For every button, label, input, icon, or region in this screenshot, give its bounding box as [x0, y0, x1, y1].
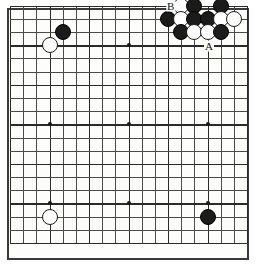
grid-line-horizontal-1: [10, 6, 247, 7]
go-diagram: BA: [0, 0, 256, 270]
grid-line-horizontal-13: [10, 164, 247, 165]
stone-black-b-q4[interactable]: [200, 209, 216, 225]
star-point-6: [206, 122, 210, 126]
stone-black-b-t17[interactable]: [213, 24, 229, 40]
grid-line-horizontal-14: [10, 177, 247, 178]
grid-line-vertical-19: [247, 6, 248, 243]
stone-white-w-d4[interactable]: [42, 209, 58, 225]
star-point-2: [127, 43, 131, 47]
marker-a: A: [204, 40, 214, 51]
stone-black-b-e17[interactable]: [55, 24, 71, 40]
grid-line-horizontal-9: [10, 111, 247, 112]
stone-white-w-u18[interactable]: [226, 11, 242, 27]
grid-line-horizontal-12: [10, 151, 247, 152]
grid-line-horizontal-5: [10, 58, 247, 59]
star-point-8: [127, 201, 131, 205]
grid-line-horizontal-18: [10, 230, 247, 231]
grid-line-horizontal-11: [10, 138, 247, 139]
grid-line-horizontal-19: [10, 243, 247, 244]
grid-line-horizontal-7: [10, 85, 247, 86]
star-point-4: [48, 122, 52, 126]
star-point-7: [48, 201, 52, 205]
star-point-5: [127, 122, 131, 126]
stone-white-w-d16[interactable]: [42, 37, 58, 53]
star-point-9: [206, 201, 210, 205]
grid-line-horizontal-15: [10, 190, 247, 191]
marker-b: B: [166, 0, 175, 11]
grid-line-horizontal-6: [10, 72, 247, 73]
grid-line-horizontal-8: [10, 98, 247, 99]
